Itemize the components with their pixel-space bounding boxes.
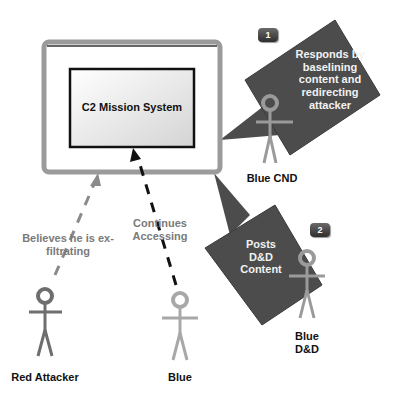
callout-1-text: Responds by baselining content and redir… xyxy=(290,48,370,111)
callout-2-text: Posts D&D Content xyxy=(238,238,284,276)
blue-dd-label: Blue D&D xyxy=(292,330,322,355)
system-title: C2 Mission System xyxy=(70,101,194,114)
red-attacker-action: Believes he is ex-filtrating xyxy=(18,232,118,257)
red-attacker-arrow xyxy=(55,182,95,275)
callout-1-badge: 1 xyxy=(258,28,278,42)
red-attacker-figure xyxy=(29,289,62,356)
blue-action: Continues Accessing xyxy=(128,217,192,242)
blue-label: Blue xyxy=(160,371,200,384)
red-attacker-label: Red Attacker xyxy=(5,371,85,384)
callout-2-badge: 2 xyxy=(310,223,330,237)
blue-cnd-label: Blue CND xyxy=(240,172,304,185)
blue-figure xyxy=(162,293,198,360)
